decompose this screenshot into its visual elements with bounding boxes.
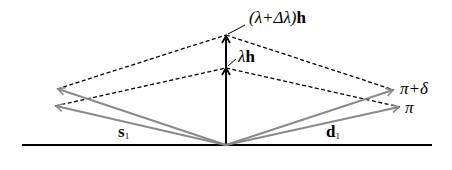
scale-text: (λ+Δλ) — [249, 8, 297, 27]
leader-top — [228, 25, 245, 34]
label-s1: s1 — [118, 123, 129, 141]
subscript: 1 — [125, 131, 130, 141]
label-lambda-plus-delta-h: (λ+Δλ)h — [249, 9, 306, 26]
subscript: 1 — [335, 131, 340, 141]
diagram-canvas — [0, 0, 452, 170]
leader-scaled — [228, 59, 236, 66]
vector-h: h — [297, 8, 306, 27]
vector-s: s — [118, 122, 125, 141]
label-pi: π — [405, 99, 414, 116]
label-pi-plus-delta: π+δ — [400, 80, 428, 97]
vector-h: h — [245, 47, 254, 66]
dashed-lines — [55, 35, 400, 107]
label-lambda-h: λh — [238, 48, 255, 65]
gray-rays — [56, 89, 399, 145]
label-d1: d1 — [326, 123, 340, 141]
